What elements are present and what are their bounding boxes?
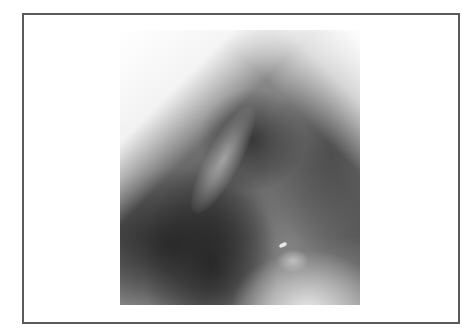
xray-upper-fade-layer [120, 30, 360, 305]
xray-image [120, 30, 360, 305]
